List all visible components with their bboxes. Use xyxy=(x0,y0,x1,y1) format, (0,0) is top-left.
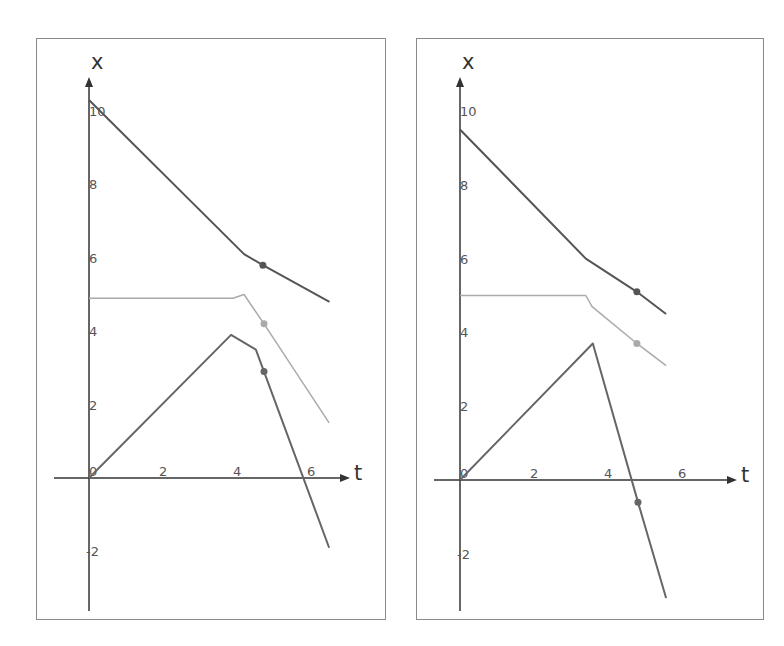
x-tick-label: 2 xyxy=(159,464,167,479)
x-tick-label: 4 xyxy=(233,464,241,479)
chart-panel-left: tx0246-2246810 xyxy=(36,38,386,620)
y-tick-label: 2 xyxy=(89,398,97,413)
series-line xyxy=(460,129,666,314)
line-chart-right: tx0246-2246810 xyxy=(417,39,763,619)
series-line xyxy=(89,100,330,302)
series-line xyxy=(460,296,666,366)
x-axis-label: t xyxy=(354,461,362,485)
series-top xyxy=(460,129,666,314)
x-tick-label: 6 xyxy=(307,464,315,479)
y-tick-label: 4 xyxy=(460,325,468,340)
y-axis-arrow-icon xyxy=(85,77,93,87)
y-tick-label: 6 xyxy=(89,251,97,266)
x-axis-label: t xyxy=(741,463,749,487)
series-top xyxy=(89,100,330,302)
y-axis-arrow-icon xyxy=(456,77,464,87)
y-tick-label: 2 xyxy=(460,399,468,414)
y-axis-label: x xyxy=(91,50,103,74)
y-tick-label: 8 xyxy=(460,178,468,193)
chart-panel-right: tx0246-2246810 xyxy=(416,38,764,620)
x-tick-label: 4 xyxy=(604,466,612,481)
y-axis-label: x xyxy=(462,50,474,74)
point-marker xyxy=(634,499,641,506)
y-tick-label: -2 xyxy=(86,544,99,559)
point-marker xyxy=(259,262,266,269)
y-tick-label: 10 xyxy=(89,104,106,119)
line-chart-left: tx0246-2246810 xyxy=(37,39,385,619)
series-line xyxy=(89,295,329,423)
point-marker xyxy=(261,320,268,327)
y-tick-label: 6 xyxy=(460,252,468,267)
y-tick-label: -2 xyxy=(457,547,470,562)
point-marker xyxy=(633,288,640,295)
y-tick-label: 10 xyxy=(460,104,477,119)
series-line xyxy=(460,343,666,598)
point-marker xyxy=(261,368,268,375)
axes: tx0246-2246810 xyxy=(54,50,362,611)
point-marker xyxy=(633,340,640,347)
x-tick-label: 2 xyxy=(530,466,538,481)
axes: tx0246-2246810 xyxy=(434,50,749,611)
y-tick-label: 8 xyxy=(89,177,97,192)
x-axis-arrow-icon xyxy=(340,474,350,482)
series-bottom xyxy=(460,343,666,598)
series-middle xyxy=(460,296,666,366)
series-middle xyxy=(89,295,329,423)
y-tick-label: 4 xyxy=(89,324,97,339)
x-axis-arrow-icon xyxy=(727,476,737,484)
x-tick-label: 6 xyxy=(678,466,686,481)
